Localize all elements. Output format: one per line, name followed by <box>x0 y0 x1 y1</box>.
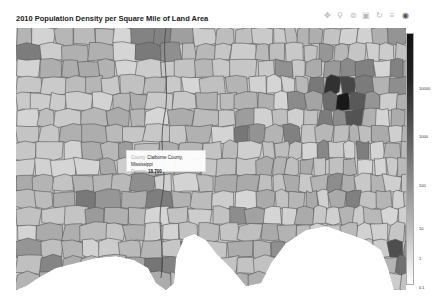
county-shape[interactable] <box>249 76 267 94</box>
county-shape[interactable] <box>358 126 372 144</box>
county-shape[interactable] <box>162 239 182 258</box>
county-shape[interactable] <box>388 125 403 142</box>
county-shape[interactable] <box>343 158 357 177</box>
county-shape[interactable] <box>299 239 310 259</box>
county-shape[interactable] <box>123 127 146 143</box>
map-canvas[interactable] <box>16 28 406 290</box>
county-shape[interactable] <box>221 256 239 274</box>
hover-button[interactable]: ◉ <box>400 11 410 21</box>
county-shape[interactable] <box>199 76 226 95</box>
county-shape[interactable] <box>361 239 374 260</box>
county-shape[interactable] <box>311 272 326 290</box>
county-shape[interactable] <box>140 240 163 259</box>
county-shape[interactable] <box>294 206 314 225</box>
county-shape[interactable] <box>213 206 231 225</box>
county-shape[interactable] <box>86 271 107 290</box>
county-shape[interactable] <box>370 223 387 241</box>
county-shape[interactable] <box>128 207 146 227</box>
county-shape[interactable] <box>230 206 247 224</box>
county-shape[interactable] <box>236 157 258 176</box>
county-shape[interactable] <box>373 60 392 79</box>
county-shape[interactable] <box>262 141 275 160</box>
county-shape[interactable] <box>325 273 339 290</box>
county-shape[interactable] <box>309 256 324 275</box>
save-button[interactable]: ▣ <box>361 11 371 21</box>
box-zoom-button[interactable]: ⚲ <box>335 11 345 21</box>
county-shape[interactable] <box>307 240 325 257</box>
county-shape[interactable] <box>294 272 309 290</box>
county-shape[interactable] <box>52 174 73 191</box>
county-shape[interactable] <box>148 271 173 290</box>
county-shape[interactable] <box>63 272 88 290</box>
pan-button[interactable]: ✥ <box>322 11 332 21</box>
county-shape[interactable] <box>80 256 104 275</box>
county-shape[interactable] <box>191 273 208 291</box>
county-shape[interactable] <box>167 108 195 127</box>
county-shape[interactable] <box>255 44 269 62</box>
county-shape[interactable] <box>364 255 382 276</box>
county-shape[interactable] <box>82 124 109 145</box>
county-shape[interactable] <box>283 273 294 290</box>
county-shape[interactable] <box>40 77 68 95</box>
county-shape[interactable] <box>381 257 397 274</box>
county-shape[interactable] <box>324 75 342 95</box>
county-shape[interactable] <box>207 272 231 290</box>
county-shape[interactable] <box>40 58 62 78</box>
county-shape[interactable] <box>275 59 293 78</box>
county-shape[interactable] <box>16 207 42 226</box>
county-shape[interactable] <box>142 124 171 142</box>
county-shape[interactable] <box>305 59 321 79</box>
county-shape[interactable] <box>342 174 356 192</box>
county-shape[interactable] <box>80 222 108 242</box>
county-shape[interactable] <box>315 123 335 142</box>
county-shape[interactable] <box>64 205 88 226</box>
county-shape[interactable] <box>190 191 212 211</box>
county-shape[interactable] <box>165 76 182 94</box>
county-shape[interactable] <box>62 256 82 276</box>
county-shape[interactable] <box>370 141 385 160</box>
county-shape[interactable] <box>287 239 300 259</box>
county-shape[interactable] <box>100 158 117 175</box>
county-shape[interactable] <box>325 225 342 243</box>
county-shape[interactable] <box>17 109 41 128</box>
county-shape[interactable] <box>130 109 146 127</box>
county-shape[interactable] <box>135 42 162 61</box>
county-shape[interactable] <box>304 91 323 112</box>
county-shape[interactable] <box>340 222 358 242</box>
county-shape[interactable] <box>49 92 67 111</box>
county-shape[interactable] <box>349 272 362 290</box>
county-shape[interactable] <box>194 59 214 79</box>
county-shape[interactable] <box>179 222 198 242</box>
county-shape[interactable] <box>343 141 355 160</box>
county-shape[interactable] <box>396 94 406 111</box>
county-shape[interactable] <box>122 225 146 242</box>
county-shape[interactable] <box>294 254 310 275</box>
county-shape[interactable] <box>201 257 222 277</box>
county-shape[interactable] <box>40 42 65 60</box>
county-shape[interactable] <box>185 125 213 144</box>
county-shape[interactable] <box>292 60 305 79</box>
county-shape[interactable] <box>237 141 262 160</box>
county-shape[interactable] <box>121 191 148 210</box>
county-shape[interactable] <box>178 256 203 275</box>
county-shape[interactable] <box>192 108 220 128</box>
county-shape[interactable] <box>215 175 238 193</box>
county-shape[interactable] <box>278 256 295 274</box>
county-shape[interactable] <box>258 174 273 192</box>
county-shape[interactable] <box>337 239 350 259</box>
county-shape[interactable] <box>309 28 323 44</box>
county-shape[interactable] <box>283 174 301 192</box>
county-shape[interactable] <box>17 59 41 79</box>
county-shape[interactable] <box>16 189 36 209</box>
county-shape[interactable] <box>363 206 383 225</box>
county-shape[interactable] <box>310 223 328 241</box>
county-shape[interactable] <box>42 206 68 224</box>
county-shape[interactable] <box>338 272 350 290</box>
county-shape[interactable] <box>356 141 369 160</box>
county-shape[interactable] <box>181 240 202 259</box>
county-shape[interactable] <box>390 58 403 77</box>
county-shape[interactable] <box>102 254 126 275</box>
county-shape[interactable] <box>78 61 101 78</box>
county-shape[interactable] <box>171 272 192 290</box>
county-shape[interactable] <box>248 271 269 290</box>
